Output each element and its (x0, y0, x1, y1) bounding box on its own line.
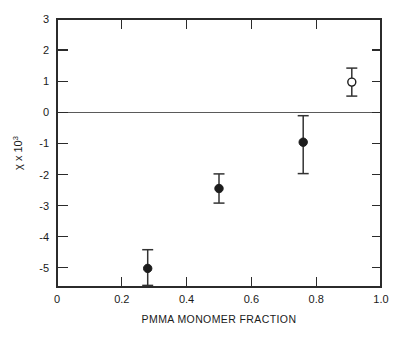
chart-figure: 3 2 1 0 -1 -2 -3 -4 -5 0 0.2 0.4 0.6 0.8… (0, 0, 401, 338)
data-point-group[interactable] (142, 250, 153, 286)
data-point-group[interactable] (298, 116, 309, 174)
x-tick-label: 0 (54, 293, 60, 305)
y-tick-label: -4 (39, 231, 49, 243)
x-tick-label: 0.4 (179, 293, 194, 305)
data-point-group[interactable] (346, 68, 357, 96)
x-axis-ticks-top (122, 19, 316, 29)
y-axis-ticks (57, 19, 68, 268)
y-tick-label: -5 (39, 262, 49, 274)
x-axis-title-text: PMMA MONOMER FRACTION (142, 313, 297, 325)
data-point-marker[interactable] (144, 264, 152, 272)
y-tick-label: -2 (39, 169, 49, 181)
y-axis-title-exponent: 3 (11, 136, 20, 140)
y-tick-label: 3 (43, 13, 49, 25)
y-tick-label: -1 (39, 137, 49, 149)
x-tick-label: 1.0 (373, 293, 388, 305)
scatter-plot-svg: 3 2 1 0 -1 -2 -3 -4 -5 0 0.2 0.4 0.6 0.8… (0, 0, 401, 338)
y-axis-ticks-right (372, 50, 381, 268)
y-tick-label: 1 (43, 75, 49, 87)
data-point-marker[interactable] (299, 138, 307, 146)
svg-text:χ x 103: χ x 103 (11, 136, 24, 170)
x-tick-label: 0.2 (114, 293, 129, 305)
y-tick-label: -3 (39, 200, 49, 212)
data-point-marker-open[interactable] (348, 78, 356, 86)
y-tick-label: 0 (43, 106, 49, 118)
data-point-marker[interactable] (215, 184, 223, 192)
y-axis-title-text: χ x 10 (12, 140, 24, 170)
x-tick-labels: 0 0.2 0.4 0.6 0.8 1.0 (54, 293, 389, 305)
x-tick-label: 0.8 (309, 293, 324, 305)
y-tick-label: 2 (43, 44, 49, 56)
x-axis-title: PMMA MONOMER FRACTION (142, 313, 297, 325)
data-point-group[interactable] (214, 174, 225, 203)
plot-frame (57, 19, 381, 287)
y-axis-title: χ x 103 (11, 136, 24, 170)
x-tick-label: 0.6 (244, 293, 259, 305)
y-tick-labels: 3 2 1 0 -1 -2 -3 -4 -5 (39, 13, 49, 274)
